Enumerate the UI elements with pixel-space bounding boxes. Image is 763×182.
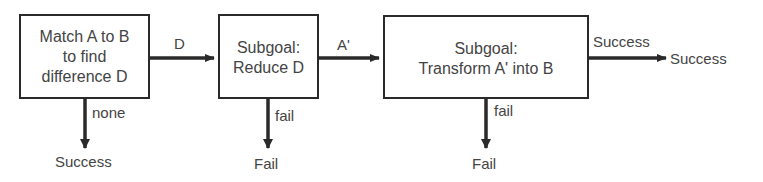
- terminal-success-bottom: Success: [55, 153, 112, 170]
- node-transform-line-2: Transform A' into B: [419, 59, 554, 79]
- node-match: Match A to B to find difference D: [19, 14, 150, 99]
- node-transform-line-1: Subgoal:: [419, 39, 554, 59]
- terminal-success-right: Success: [670, 50, 727, 67]
- edge-label-none: none: [92, 104, 125, 121]
- node-match-line-1: Match A to B: [40, 27, 130, 47]
- node-match-line-3: difference D: [40, 67, 130, 87]
- terminal-fail-1: Fail: [254, 155, 278, 172]
- node-reduce: Subgoal: Reduce D: [218, 14, 319, 99]
- edge-label-success: Success: [593, 33, 650, 50]
- edge-label-fail-1: fail: [275, 107, 294, 124]
- node-transform: Subgoal: Transform A' into B: [383, 15, 589, 99]
- edge-label-d: D: [174, 35, 185, 52]
- node-reduce-line-1: Subgoal:: [233, 38, 304, 58]
- node-match-line-2: to find: [40, 47, 130, 67]
- edge-label-a-prime: A': [337, 36, 350, 53]
- terminal-fail-2: Fail: [472, 155, 496, 172]
- edge-label-fail-2: fail: [494, 102, 513, 119]
- node-reduce-line-2: Reduce D: [233, 58, 304, 78]
